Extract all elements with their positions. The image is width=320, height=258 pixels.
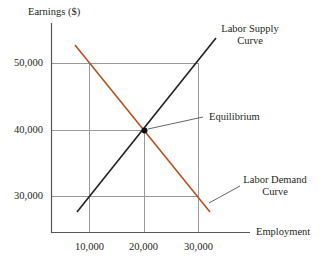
equilibrium-label: Equilibrium xyxy=(209,111,260,123)
y-axis-label: Earnings ($) xyxy=(28,6,80,18)
supply-curve-label: Labor Supply Curve xyxy=(210,23,290,47)
x-tick-30000: 30,000 xyxy=(184,241,213,253)
supply-label-line2: Curve xyxy=(210,35,290,47)
axes xyxy=(51,23,250,233)
x-tick-20000: 20,000 xyxy=(129,241,158,253)
demand-curve-label: Labor Demand Curve xyxy=(234,174,316,198)
equilibrium-point xyxy=(142,128,148,134)
supply-label-line1: Labor Supply xyxy=(210,23,290,35)
y-tick-30000: 30,000 xyxy=(14,190,43,202)
y-tick-40000: 40,000 xyxy=(14,124,43,136)
x-axis-label: Employment xyxy=(256,226,310,238)
y-tick-50000: 50,000 xyxy=(14,57,43,69)
leader-lines xyxy=(148,117,240,203)
demand-label-line2: Curve xyxy=(234,186,316,198)
x-tick-10000: 10,000 xyxy=(75,241,104,253)
demand-label-line1: Labor Demand xyxy=(234,174,316,186)
equilibrium-leader xyxy=(148,117,203,129)
labor-supply-curve xyxy=(77,38,216,212)
